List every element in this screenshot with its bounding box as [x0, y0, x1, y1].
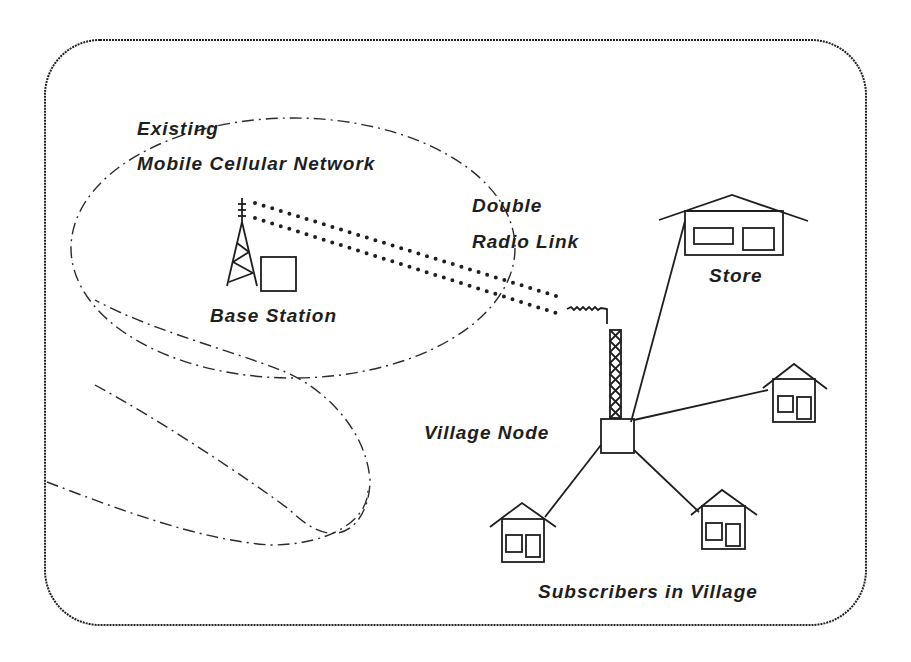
- radio-link-label-line2: Radio Link: [472, 231, 580, 252]
- base-station-equipment-icon: [261, 257, 296, 291]
- subscribers-label: Subscribers in Village: [538, 581, 758, 602]
- store-building-icon: [659, 195, 808, 255]
- network-label-line1: Existing: [137, 118, 219, 139]
- village-node-label: Village Node: [424, 422, 549, 443]
- house-right-icon: [763, 364, 827, 422]
- base-station-tower-icon: [227, 198, 257, 286]
- link-to-house-bottom-right: [634, 450, 699, 512]
- village-node-mast-icon: [610, 330, 621, 418]
- village-node-antenna-icon: [567, 307, 607, 324]
- coverage-area-lobe: [95, 300, 370, 533]
- link-to-house-right: [634, 390, 768, 420]
- house-bottom-right-icon: [691, 490, 757, 549]
- base-station-label: Base Station: [210, 305, 337, 326]
- village-node-box-icon: [601, 419, 634, 453]
- link-to-store: [631, 221, 685, 422]
- network-label-line2: Mobile Cellular Network: [137, 153, 376, 174]
- radio-link-label-line1: Double: [472, 195, 542, 216]
- house-bottom-left-icon: [490, 503, 556, 562]
- coverage-area-lobe-lower: [47, 482, 368, 545]
- network-diagram: Existing Mobile Cellular Network Base St…: [0, 0, 911, 662]
- store-label: Store: [709, 265, 763, 286]
- link-to-house-bottom-left: [545, 445, 601, 517]
